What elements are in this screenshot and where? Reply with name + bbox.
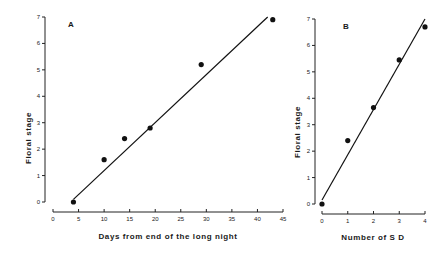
- data-point: [319, 201, 324, 206]
- data-point: [270, 17, 275, 22]
- data-point: [199, 62, 204, 67]
- y-axis-title: Floral stage: [24, 112, 33, 164]
- x-tick-label: 4: [423, 218, 427, 224]
- x-tick-label: 0: [51, 216, 55, 222]
- data-point: [345, 138, 350, 143]
- x-axis-title: Number of S D: [341, 233, 404, 242]
- x-tick-label: 25: [177, 216, 184, 222]
- x-tick-label: 45: [280, 216, 287, 222]
- x-tick-label: 1: [346, 218, 350, 224]
- data-point: [71, 199, 76, 204]
- y-tick-label: 7: [37, 14, 41, 20]
- x-tick-label: 30: [203, 216, 210, 222]
- x-tick-label: 40: [254, 216, 261, 222]
- y-tick-label: 0: [307, 201, 311, 207]
- data-point: [371, 105, 376, 110]
- y-tick-label: 2: [307, 148, 311, 154]
- y-tick-label: 3: [37, 120, 41, 126]
- y-tick-label: 6: [307, 42, 311, 48]
- y-tick-label: 1: [37, 173, 41, 179]
- x-tick-label: 15: [126, 216, 133, 222]
- figure: 01234567051015202530354045ADays from end…: [0, 0, 447, 253]
- y-tick-label: 5: [307, 69, 311, 75]
- y-tick-label: 6: [37, 40, 41, 46]
- x-tick-label: 20: [152, 216, 159, 222]
- x-tick-label: 2: [372, 218, 376, 224]
- chart-panel-a: 01234567051015202530354045ADays from end…: [24, 14, 287, 241]
- y-axis-title: Floral stage: [293, 106, 302, 158]
- chart-panel-b: 0123456701234BNumber of S DFloral stage: [293, 16, 428, 242]
- y-tick-label: 3: [307, 122, 311, 128]
- panel-label: A: [68, 20, 74, 29]
- y-tick-label: 7: [307, 16, 311, 22]
- data-point: [102, 157, 107, 162]
- y-tick-label: 5: [37, 67, 41, 73]
- panel-label: B: [343, 22, 349, 31]
- x-tick-label: 3: [398, 218, 402, 224]
- y-tick-label: 2: [37, 146, 41, 152]
- data-point: [122, 136, 127, 141]
- y-tick-label: 4: [37, 93, 41, 99]
- data-point: [422, 24, 427, 29]
- regression-line: [73, 17, 267, 199]
- x-tick-label: 0: [320, 218, 324, 224]
- data-point: [397, 57, 402, 62]
- data-point: [148, 125, 153, 130]
- y-tick-label: 0: [37, 199, 41, 205]
- y-tick-label: 4: [307, 95, 311, 101]
- x-tick-label: 5: [77, 216, 81, 222]
- x-tick-label: 10: [101, 216, 108, 222]
- x-axis-title: Days from end of the long night: [98, 232, 237, 241]
- y-tick-label: 1: [307, 175, 311, 181]
- x-tick-label: 35: [229, 216, 236, 222]
